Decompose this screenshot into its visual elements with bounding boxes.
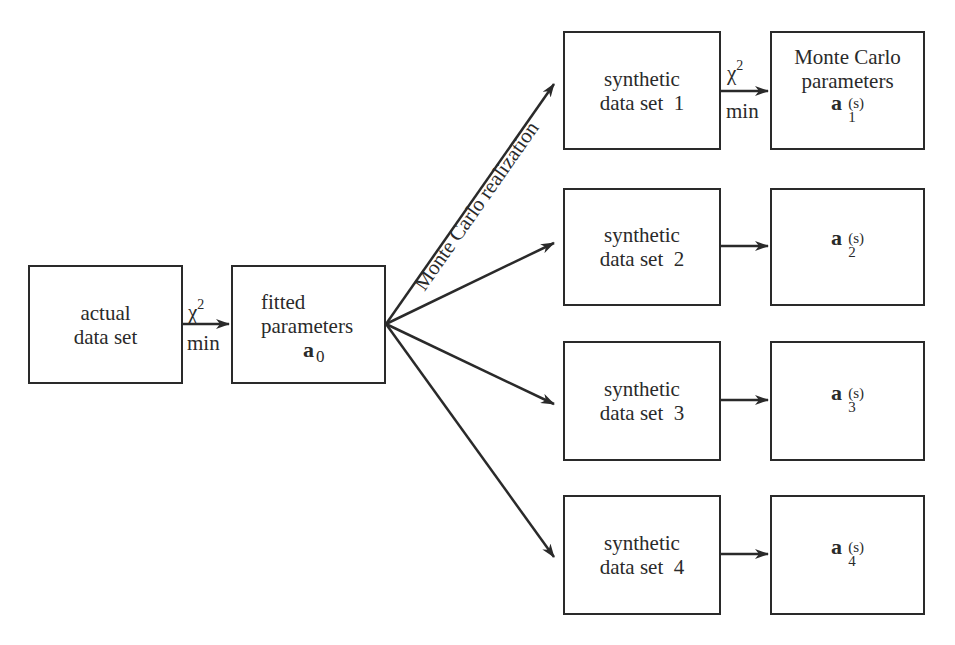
synthetic-1-line2: data set 1 [600, 91, 685, 115]
synthetic-data-set-4-box: synthetic data set 4 [563, 495, 721, 615]
result-4-vector: a (s) 4 [831, 535, 864, 570]
subscript-index: 3 [848, 400, 864, 414]
chi-exponent-mc: 2 [736, 58, 743, 73]
synthetic-4-line2: data set 4 [600, 555, 685, 579]
result-box-1: Monte Carlo parameters a (s) 1 [770, 31, 925, 150]
synthetic-2-line2: data set 2 [600, 247, 685, 271]
subscript-index: 2 [848, 245, 864, 259]
synthetic-data-set-3-box: synthetic data set 3 [563, 341, 721, 461]
fitted-line1: fitted [261, 290, 305, 314]
result-2-vector: a (s) 2 [831, 226, 864, 261]
subscript-index: 4 [848, 554, 864, 568]
superscript-s: (s) [848, 96, 864, 110]
actual-line1: actual [80, 301, 130, 325]
chi2-label-mc: χ2 [727, 57, 743, 84]
sup-sub: (s) 3 [848, 386, 864, 414]
actual-data-set-box: actual data set [28, 265, 183, 384]
vector-a: a [831, 380, 842, 405]
sup-sub: (s) 1 [848, 96, 864, 124]
chi-exponent: 2 [197, 297, 204, 312]
fitted-parameters-box: fitted parameters a0 [231, 265, 386, 384]
arrow-fitted-to-synthetic-2 [386, 243, 554, 324]
synthetic-3-line2: data set 3 [600, 401, 685, 425]
result-3-vector: a (s) 3 [831, 381, 864, 416]
synthetic-4-line1: synthetic [604, 531, 680, 555]
chi-symbol-mc: χ [727, 61, 736, 85]
subscript-0: 0 [316, 347, 325, 366]
result-1-title1: Monte Carlo [794, 45, 901, 69]
superscript-s: (s) [848, 386, 864, 400]
result-box-2: a (s) 2 [770, 188, 925, 306]
vector-a0: a [303, 337, 314, 362]
arrow-fitted-to-synthetic-3 [386, 324, 554, 404]
superscript-s: (s) [848, 540, 864, 554]
synthetic-data-set-1-box: synthetic data set 1 [563, 31, 721, 150]
result-box-4: a (s) 4 [770, 495, 925, 615]
subscript-index: 1 [848, 110, 864, 124]
sup-sub: (s) 4 [848, 540, 864, 568]
synthetic-2-line1: synthetic [604, 223, 680, 247]
chi2-label-main: χ2 [188, 296, 204, 323]
min-label-main: min [187, 332, 220, 354]
vector-a: a [831, 225, 842, 250]
fitted-line2: parameters [261, 314, 353, 338]
vector-a: a [831, 534, 842, 559]
synthetic-3-line1: synthetic [604, 377, 680, 401]
result-1-title2: parameters [801, 69, 893, 93]
synthetic-data-set-2-box: synthetic data set 2 [563, 188, 721, 306]
result-box-3: a (s) 3 [770, 341, 925, 461]
fitted-vector: a0 [303, 338, 325, 364]
synthetic-1-line1: synthetic [604, 67, 680, 91]
sup-sub: (s) 2 [848, 231, 864, 259]
arrow-fitted-to-synthetic-4 [386, 324, 554, 557]
actual-line2: data set [74, 325, 138, 349]
chi-symbol: χ [188, 300, 197, 324]
vector-a: a [831, 90, 842, 115]
result-1-vector: a (s) 1 [831, 91, 864, 126]
min-label-mc: min [726, 100, 759, 122]
superscript-s: (s) [848, 231, 864, 245]
